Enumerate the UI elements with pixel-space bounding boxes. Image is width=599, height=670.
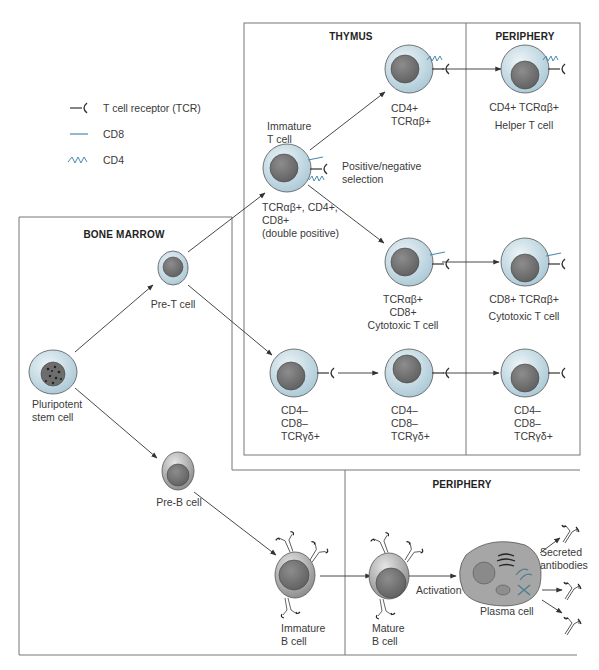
region-periphery-top-label: PERIPHERY <box>495 31 554 42</box>
pre-t-cell-label: Pre-T cell <box>151 298 196 311</box>
immature-b-cell <box>275 531 329 618</box>
immature-t-cell <box>263 144 327 192</box>
stem-cell <box>29 350 77 394</box>
region-periphery-bottom-label: PERIPHERY <box>432 479 491 490</box>
arrows <box>75 69 562 613</box>
plasma-cell-label: Plasma cell <box>480 605 534 618</box>
plasma-cell <box>460 542 541 606</box>
thymus-cd8-cell <box>385 238 449 286</box>
periphery-helper-name: Helper T cell <box>495 119 554 132</box>
thymus-gd-1-label: CD4– CD8– TCRγδ+ <box>281 404 320 443</box>
legend-cd4-label: CD4 <box>103 154 124 167</box>
mature-b-cell-label: Mature B cell <box>372 622 405 648</box>
pre-b-cell-label: Pre-B cell <box>156 496 202 509</box>
tcr-icon <box>70 103 87 113</box>
stem-cell-label: Pluripotent stem cell <box>32 398 82 424</box>
region-thymus-label: THYMUS <box>329 31 372 42</box>
activation-label: Activation <box>416 584 462 597</box>
secreted-antibodies-label: Secreted antibodies <box>540 546 588 572</box>
periphery-cytotoxic-t-cell <box>501 238 565 286</box>
selection-label: Positive/negative selection <box>342 160 421 186</box>
periphery-gd-t-cell <box>501 349 565 397</box>
periphery-gd-label: CD4– CD8– TCRγδ+ <box>514 404 553 443</box>
pre-t-cell <box>158 251 188 285</box>
periphery-helper-t-cell <box>501 45 565 93</box>
periphery-cytotoxic-markers: CD8+ TCRαβ+ <box>489 293 559 306</box>
thymus-gd-2-label: CD4– CD8– TCRγδ+ <box>391 404 430 443</box>
legend-cd8-label: CD8 <box>103 128 124 141</box>
thymus-cd4-label: CD4+ TCRαβ+ <box>391 102 431 128</box>
thymus-gd-cell-2 <box>385 349 449 397</box>
immature-t-cell-title: Immature T cell <box>267 120 311 146</box>
thymus-cd4-cell <box>385 45 449 93</box>
cd4-icon <box>68 157 87 163</box>
secreted-antibodies <box>562 525 581 635</box>
legend-tcr-label: T cell receptor (TCR) <box>103 102 201 115</box>
immature-t-cell-markers: TCRαβ+, CD4+, CD8+ (double positive) <box>262 201 339 240</box>
pre-b-cell <box>162 452 194 490</box>
legend-icons <box>68 103 88 163</box>
region-bone-marrow-label: BONE MARROW <box>83 229 164 240</box>
thymus-cd8-label: TCRαβ+ CD8+ Cytotoxic T cell <box>368 293 439 332</box>
immature-b-cell-label: Immature B cell <box>281 622 325 648</box>
periphery-cytotoxic-name: Cytotoxic T cell <box>489 310 560 323</box>
periphery-helper-markers: CD4+ TCRαβ+ <box>489 101 559 114</box>
thymus-gd-cell-1 <box>270 349 334 397</box>
